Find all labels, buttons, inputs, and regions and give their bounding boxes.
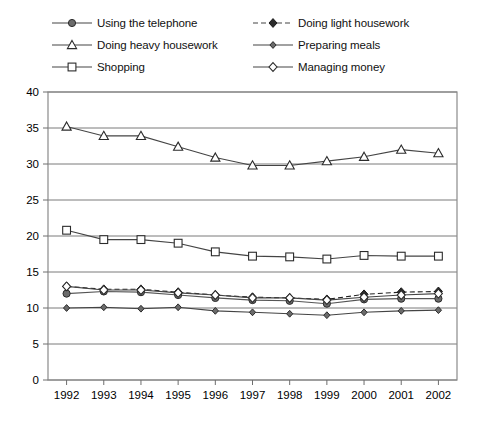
- chart-container: Using the telephone Doing light housewor…: [0, 0, 481, 422]
- x-tick-label: 1999: [314, 389, 340, 401]
- x-axis-labels: 1992199319941995199619971998199920002001…: [54, 389, 451, 401]
- x-tick-label: 1993: [91, 389, 117, 401]
- data-point-small-filled-diamond: [249, 309, 255, 316]
- data-point-open-diamond: [63, 282, 71, 291]
- line-chart-svg: 0510152025303540 19921993199419951996199…: [0, 0, 481, 422]
- series-line: [67, 127, 439, 166]
- data-point-open-square: [397, 252, 405, 260]
- data-point-open-square: [63, 226, 71, 234]
- data-point-open-triangle: [397, 145, 406, 153]
- x-tick-label: 1994: [128, 389, 154, 401]
- x-tick-label: 1996: [203, 389, 229, 401]
- data-series: [62, 122, 443, 319]
- x-axis-ticks: [67, 380, 439, 385]
- gridlines: [48, 92, 457, 380]
- series-3: [63, 304, 441, 319]
- x-tick-label: 1995: [165, 389, 191, 401]
- data-point-small-filled-diamond: [101, 304, 107, 311]
- data-point-open-square: [174, 239, 182, 247]
- data-point-open-square: [100, 236, 108, 244]
- y-tick-label: 20: [26, 230, 39, 242]
- data-point-open-square: [137, 236, 145, 244]
- series-5: [63, 282, 443, 304]
- y-tick-label: 35: [26, 122, 39, 134]
- plot-area: 0510152025303540 19921993199419951996199…: [0, 0, 481, 422]
- data-point-small-filled-diamond: [361, 309, 367, 316]
- series-4: [63, 226, 443, 263]
- data-point-small-filled-diamond: [287, 310, 293, 317]
- data-point-open-square: [435, 252, 443, 260]
- y-tick-label: 10: [26, 302, 39, 314]
- y-tick-label: 30: [26, 158, 39, 170]
- y-tick-label: 0: [33, 374, 39, 386]
- x-tick-label: 2000: [351, 389, 377, 401]
- x-tick-label: 1997: [240, 389, 266, 401]
- series-2: [62, 122, 443, 169]
- y-tick-label: 5: [33, 338, 39, 350]
- y-tick-label: 40: [26, 86, 39, 98]
- data-point-small-filled-diamond: [324, 312, 330, 319]
- data-point-open-square: [286, 253, 294, 261]
- data-point-open-square: [360, 252, 368, 260]
- data-point-small-filled-diamond: [175, 304, 181, 311]
- x-tick-label: 2001: [388, 389, 414, 401]
- data-point-open-square: [249, 252, 257, 260]
- data-point-open-triangle: [62, 122, 71, 130]
- y-axis-ticks: [43, 92, 48, 380]
- y-tick-label: 25: [26, 194, 39, 206]
- data-point-open-square: [211, 248, 219, 256]
- x-tick-label: 1998: [277, 389, 303, 401]
- x-tick-label: 1992: [54, 389, 80, 401]
- data-point-small-filled-diamond: [138, 305, 144, 312]
- x-tick-label: 2002: [426, 389, 452, 401]
- data-point-small-filled-diamond: [63, 305, 69, 312]
- y-axis-labels: 0510152025303540: [26, 86, 39, 386]
- y-tick-label: 15: [26, 266, 39, 278]
- data-point-open-square: [323, 255, 331, 263]
